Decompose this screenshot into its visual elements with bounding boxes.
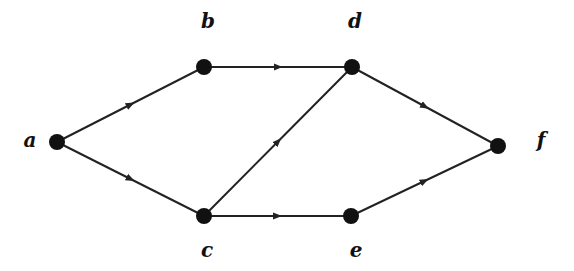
node-f xyxy=(490,138,506,154)
node-c xyxy=(196,208,212,224)
edge-d-f xyxy=(352,67,498,146)
node-label-a: a xyxy=(24,128,37,152)
node-label-e: e xyxy=(350,238,363,262)
edge-c-d xyxy=(204,67,352,216)
node-label-d: d xyxy=(348,9,362,33)
node-e xyxy=(343,208,359,224)
node-label-c: c xyxy=(201,238,213,262)
edge-e-f xyxy=(351,146,498,216)
node-b xyxy=(196,59,212,75)
directed-graph: abcdef xyxy=(0,0,574,271)
labels-group: abcdef xyxy=(24,9,549,262)
node-d xyxy=(344,59,360,75)
node-label-b: b xyxy=(201,9,215,33)
edge-a-b xyxy=(57,67,204,142)
node-label-f: f xyxy=(535,128,549,152)
node-a xyxy=(49,134,65,150)
edges-group xyxy=(57,67,498,216)
edge-a-c xyxy=(57,142,204,216)
